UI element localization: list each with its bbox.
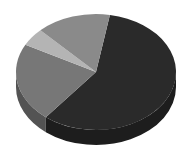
- pie-chart: [0, 0, 193, 155]
- pie-top: [16, 14, 176, 130]
